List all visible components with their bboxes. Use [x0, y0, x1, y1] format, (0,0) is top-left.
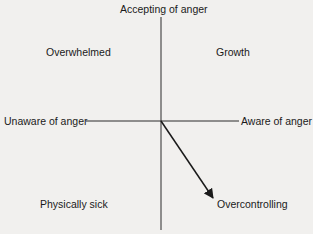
- quadrant-label-overwhelmed: Overwhelmed: [46, 46, 111, 58]
- quadrant-label-growth: Growth: [216, 46, 250, 58]
- arrow-to-overcontrolling: [161, 121, 213, 198]
- axis-label-aware: Aware of anger: [241, 115, 312, 127]
- axis-label-accepting: Accepting of anger: [120, 3, 208, 15]
- axis-label-unaware: Unaware of anger: [4, 115, 87, 127]
- quadrant-label-physically-sick: Physically sick: [40, 198, 108, 210]
- quadrant-label-overcontrolling: Overcontrolling: [217, 198, 288, 210]
